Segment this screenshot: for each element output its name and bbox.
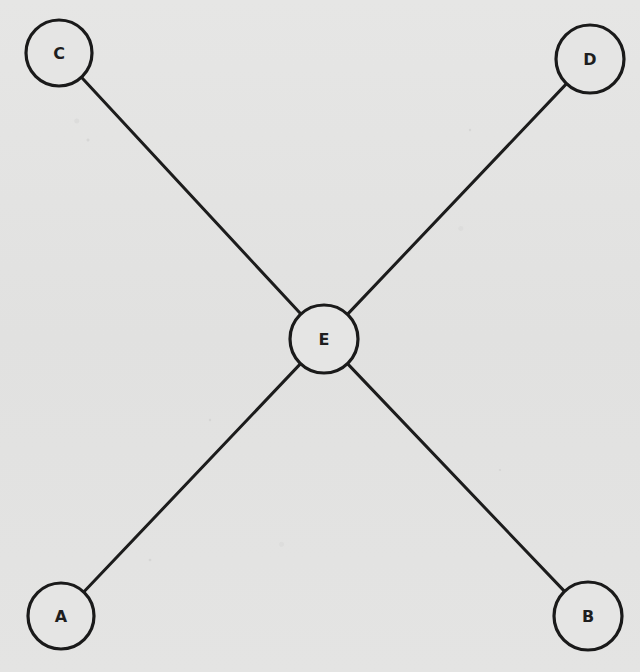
- diagram-canvas: ABCDE: [0, 0, 640, 672]
- node-label: C: [53, 44, 65, 63]
- node-label: E: [319, 330, 330, 349]
- node-c: C: [26, 20, 92, 86]
- node-e: E: [290, 305, 358, 373]
- node-label: D: [583, 50, 596, 69]
- edge-a-e: [84, 364, 301, 592]
- node-label: A: [55, 607, 68, 626]
- edge-c-e: [81, 77, 300, 314]
- node-d: D: [556, 25, 624, 93]
- edge-b-e: [347, 364, 564, 592]
- node-label: B: [582, 607, 594, 626]
- node-b: B: [554, 582, 622, 650]
- star-graph-diagram: ABCDE: [0, 0, 640, 672]
- edge-d-e: [347, 84, 566, 315]
- node-a: A: [28, 583, 94, 649]
